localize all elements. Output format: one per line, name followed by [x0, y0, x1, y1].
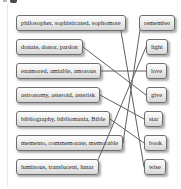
left-word-box: bibliography, bibliomania, Bible [16, 111, 110, 127]
cropped-header-fragment [10, 0, 17, 3]
worksheet-page: philosopher, sophisticated, sophomoredon… [0, 0, 181, 189]
connection-line [123, 30, 140, 143]
connection-line [121, 31, 144, 167]
right-word-box: give [146, 87, 167, 103]
cropped-header-fragment [3, 0, 7, 2]
right-word-box: love [146, 63, 167, 79]
left-word-box: astronomy, asteroid, asterisk [16, 87, 100, 103]
right-word-box: remember [139, 15, 175, 31]
right-word-box: wise [144, 159, 166, 175]
right-word-box: light [146, 39, 168, 55]
left-word-box: luminous, translucent, lunar [16, 159, 99, 175]
left-word-box: memento, commemorate, memorable [16, 135, 123, 151]
left-word-box: philosopher, sophisticated, sophomore [16, 15, 126, 31]
right-word-box: book [144, 135, 167, 151]
page-edge-line [7, 4, 8, 187]
left-word-box: enamored, amiable, amorous [16, 63, 101, 79]
left-word-box: donate, donor, pardon [16, 39, 83, 55]
right-word-box: star [144, 111, 163, 127]
